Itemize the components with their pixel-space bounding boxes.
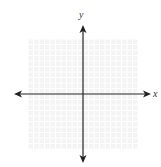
y-axis-label: y	[79, 9, 83, 20]
coordinate-plane	[0, 0, 161, 167]
x-axis-label: x	[153, 88, 157, 99]
